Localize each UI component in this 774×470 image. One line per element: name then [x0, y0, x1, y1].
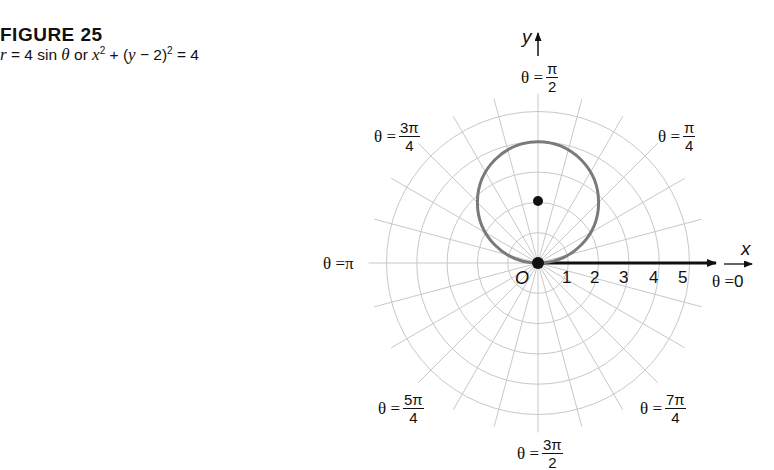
pole-label: O [515, 268, 529, 289]
fraction-numerator: π [546, 61, 558, 78]
angle-label-0: θ = 0 [712, 272, 743, 292]
fraction-numerator: 3π [399, 120, 420, 137]
fraction-numerator: 7π [665, 392, 686, 409]
x-axis-label: x [741, 238, 751, 260]
fraction-numerator: 5π [403, 392, 424, 409]
fraction-denominator: 2 [548, 78, 556, 94]
angle-label-pi-4: θ = π4 [658, 120, 695, 153]
tick-2: 2 [590, 268, 599, 288]
tick-1: 1 [562, 268, 571, 288]
angle-prefix: θ = [378, 399, 400, 419]
angle-fraction: 3π4 [399, 120, 420, 153]
angle-value: 0 [734, 272, 743, 292]
angle-label-pi: θ = π [323, 254, 354, 274]
fraction-denominator: 4 [671, 409, 679, 425]
pole-point [532, 257, 544, 269]
angle-fraction: 7π4 [665, 392, 686, 425]
tick-5: 5 [678, 268, 687, 288]
fraction-denominator: 4 [409, 409, 417, 425]
angle-fraction: π4 [683, 120, 695, 153]
fraction-numerator: 3π [542, 437, 563, 454]
grid-radial-line [538, 263, 685, 348]
tick-3: 3 [619, 268, 628, 288]
fraction-denominator: 2 [548, 454, 556, 470]
fraction-numerator: π [683, 120, 695, 137]
angle-prefix: θ = [712, 272, 734, 292]
angle-prefix: θ = [658, 127, 680, 147]
grid-radial-line [538, 99, 582, 263]
grid-radial-line [453, 116, 538, 263]
grid-radial-line [374, 263, 538, 307]
fraction-denominator: 4 [685, 137, 693, 153]
y-axis-label: y [522, 26, 532, 48]
grid-radial-line [494, 99, 538, 263]
angle-fraction: 3π2 [542, 437, 563, 470]
angle-fraction: 5π4 [403, 392, 424, 425]
angle-label-7pi-4: θ = 7π4 [640, 392, 686, 425]
angle-prefix: θ = [521, 68, 543, 88]
grid-radial-line [391, 178, 538, 263]
angle-value: π [345, 254, 354, 274]
tick-4: 4 [649, 268, 658, 288]
center-point [533, 196, 543, 206]
angle-label-pi-2: θ = π2 [521, 61, 558, 94]
angle-prefix: θ = [517, 444, 539, 464]
grid-radial-line [538, 263, 582, 427]
angle-label-3pi-4: θ = 3π4 [374, 120, 420, 153]
angle-label-5pi-4: θ = 5π4 [378, 392, 424, 425]
grid-radial-line [538, 178, 685, 263]
grid-radial-line [538, 116, 623, 263]
angle-prefix: θ = [374, 127, 396, 147]
angle-prefix: θ = [640, 399, 662, 419]
fraction-denominator: 4 [405, 137, 413, 153]
angle-label-3pi-2: θ = 3π2 [517, 437, 563, 470]
angle-prefix: θ = [323, 254, 345, 274]
grid-radial-line [538, 263, 623, 410]
angle-fraction: π2 [546, 61, 558, 94]
